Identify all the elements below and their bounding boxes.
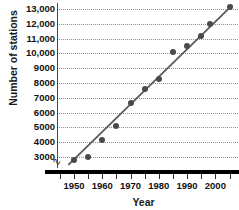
y-axis-tick-label: 8000 — [3, 78, 55, 88]
data-point — [142, 86, 148, 92]
plot-area — [57, 3, 238, 166]
x-axis-tick — [187, 174, 188, 179]
x-axis-tick — [173, 174, 174, 179]
x-axis-tick — [215, 174, 216, 179]
y-axis-tick-label: 3000 — [3, 152, 55, 162]
data-point — [170, 49, 176, 55]
data-point — [156, 76, 162, 82]
x-axis-tick — [88, 174, 89, 179]
y-axis-tick-label: 4000 — [3, 137, 55, 147]
x-axis-title-text: Year — [84, 196, 154, 208]
x-axis-tick — [60, 174, 61, 179]
y-axis-tick-label: 12,000 — [3, 19, 55, 29]
x-axis-tick-labels: 195019601970198019902000 — [0, 181, 239, 195]
trend-line — [57, 3, 238, 166]
x-axis-tick — [201, 174, 202, 179]
x-axis-tick — [145, 174, 146, 179]
y-axis-line — [57, 3, 58, 168]
data-point — [207, 21, 213, 27]
x-axis-tick — [230, 174, 231, 179]
x-axis-tick — [116, 174, 117, 179]
y-axis-tick-label: 9000 — [3, 63, 55, 73]
y-axis-tick-label: 10,000 — [3, 48, 55, 58]
data-point — [71, 157, 77, 163]
data-point — [227, 4, 233, 10]
x-axis-title: Year — [0, 196, 239, 208]
x-axis-tick — [74, 174, 75, 179]
chart-container: Number of stations 300040005000600070008… — [0, 0, 239, 210]
y-axis-tick-label: 5000 — [3, 122, 55, 132]
y-axis-tick-label: 11,000 — [3, 34, 55, 44]
y-axis-tick-label: 6000 — [3, 108, 55, 118]
x-axis-tick — [159, 174, 160, 179]
data-point — [128, 100, 134, 106]
y-axis-tick-label: 7000 — [3, 93, 55, 103]
data-point — [198, 33, 204, 39]
x-axis-tick — [102, 174, 103, 179]
x-axis-tick — [131, 174, 132, 179]
y-axis-tick-label: 13,000 — [3, 4, 55, 14]
x-axis-tick-label: 2000 — [198, 181, 232, 191]
axis-break-icon: ∿ — [52, 155, 61, 168]
